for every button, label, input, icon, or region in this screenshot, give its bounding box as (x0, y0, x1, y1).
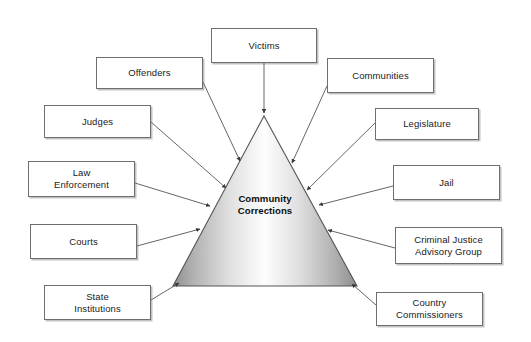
node-box-courts[interactable]: Courts (30, 224, 137, 259)
node-box-communities[interactable]: Communities (327, 58, 434, 93)
arrow-judges (151, 122, 226, 188)
arrow-law-enforcement (135, 183, 210, 206)
node-label-jail: Jail (439, 177, 454, 189)
node-box-legislature[interactable]: Legislature (375, 108, 479, 140)
node-box-jail[interactable]: Jail (393, 165, 500, 200)
node-box-victims[interactable]: Victims (211, 28, 317, 63)
arrow-legislature (307, 123, 375, 190)
node-label-judges: Judges (82, 116, 113, 128)
node-label-law-enforcement: Law Enforcement (54, 167, 109, 191)
node-box-state-institutions[interactable]: State Institutions (44, 285, 151, 320)
node-box-offenders[interactable]: Offenders (96, 57, 203, 89)
node-label-victims: Victims (248, 40, 279, 52)
arrow-criminal-justice-advisory-group (328, 230, 395, 248)
arrow-state-institutions (151, 283, 179, 300)
node-box-criminal-justice-advisory-group[interactable]: Criminal Justice Advisory Group (395, 227, 502, 264)
node-label-courts: Courts (69, 236, 98, 248)
node-box-country-commissioners[interactable]: Country Commissioners (376, 292, 483, 326)
node-label-offenders: Offenders (128, 67, 170, 79)
node-label-country-commissioners: Country Commissioners (396, 297, 463, 321)
arrow-communities (292, 86, 327, 163)
arrow-jail (319, 186, 393, 205)
node-label-communities: Communities (352, 70, 409, 82)
node-label-legislature: Legislature (403, 118, 451, 130)
diagram-canvas: Community Corrections VictimsOffendersCo… (0, 0, 531, 342)
node-box-law-enforcement[interactable]: Law Enforcement (28, 161, 135, 197)
node-label-criminal-justice-advisory-group: Criminal Justice Advisory Group (414, 234, 483, 258)
center-label: Community Corrections (205, 193, 325, 216)
node-box-judges[interactable]: Judges (44, 105, 151, 138)
arrow-country-commissioners (352, 284, 376, 305)
arrow-offenders (203, 82, 240, 161)
arrow-courts (137, 229, 200, 246)
node-label-state-institutions: State Institutions (74, 291, 121, 315)
